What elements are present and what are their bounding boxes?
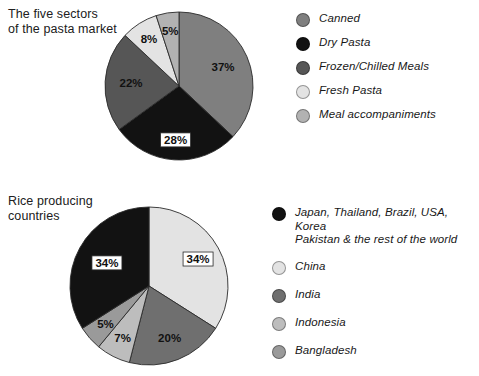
pasta-legend-label: Dry Pasta bbox=[319, 36, 370, 50]
pasta-legend-label: Frozen/Chilled Meals bbox=[319, 60, 429, 74]
rice-legend-swatch-icon bbox=[272, 345, 286, 359]
rice-slice-label: 34% bbox=[187, 253, 210, 265]
rice-legend-item[interactable]: China bbox=[272, 260, 479, 275]
pasta-legend-item[interactable]: Canned bbox=[296, 12, 436, 27]
pasta-legend-item[interactable]: Dry Pasta bbox=[296, 36, 436, 51]
pasta-legend-label: Meal accompaniments bbox=[319, 108, 436, 122]
rice-pie-svg: 34%20%7%5%34% bbox=[66, 203, 232, 369]
pasta-legend-item[interactable]: Meal accompaniments bbox=[296, 108, 436, 123]
rice-legend-label: Indonesia bbox=[295, 316, 346, 330]
rice-legend-item[interactable]: India bbox=[272, 288, 479, 303]
rice-legend-swatch-icon bbox=[272, 317, 286, 331]
rice-slice-label: 7% bbox=[114, 332, 131, 344]
rice-legend-item[interactable]: Bangladesh bbox=[272, 344, 479, 359]
pasta-slice-label: 8% bbox=[141, 33, 158, 45]
rice-legend-item[interactable]: Japan, Thailand, Brazil, USA, Korea Paki… bbox=[272, 206, 479, 247]
rice-slice-label: 5% bbox=[97, 318, 114, 330]
pasta-legend-label: Canned bbox=[319, 12, 360, 26]
figure-canvas: The five sectors of the pasta market 37%… bbox=[0, 0, 479, 376]
rice-legend: Japan, Thailand, Brazil, USA, Korea Paki… bbox=[272, 206, 479, 372]
rice-slice-label: 20% bbox=[158, 332, 181, 344]
rice-legend-swatch-icon bbox=[272, 261, 286, 275]
rice-legend-label: Bangladesh bbox=[295, 344, 357, 358]
rice-legend-swatch-icon bbox=[272, 289, 286, 303]
rice-slice-label: 34% bbox=[95, 257, 118, 269]
pasta-pie-chart: 37%28%22%8%5% bbox=[99, 6, 259, 166]
pasta-legend-swatch-icon bbox=[296, 61, 310, 75]
rice-legend-item[interactable]: Indonesia bbox=[272, 316, 479, 331]
pasta-slice-label: 5% bbox=[162, 25, 179, 37]
rice-legend-label: China bbox=[295, 260, 326, 274]
pasta-legend-item[interactable]: Frozen/Chilled Meals bbox=[296, 60, 436, 75]
pasta-slice-label: 22% bbox=[120, 77, 143, 89]
pasta-legend-swatch-icon bbox=[296, 109, 310, 123]
pasta-legend-item[interactable]: Fresh Pasta bbox=[296, 84, 436, 99]
rice-legend-swatch-icon bbox=[272, 207, 286, 221]
pasta-legend-swatch-icon bbox=[296, 37, 310, 51]
pasta-legend-label: Fresh Pasta bbox=[319, 84, 382, 98]
pasta-legend-swatch-icon bbox=[296, 85, 310, 99]
pasta-slice-label: 28% bbox=[164, 134, 187, 146]
pasta-slice-label: 37% bbox=[212, 61, 235, 73]
rice-legend-label: Japan, Thailand, Brazil, USA, Korea Paki… bbox=[295, 206, 479, 247]
rice-legend-label: India bbox=[295, 288, 320, 302]
pasta-pie-svg: 37%28%22%8%5% bbox=[99, 6, 259, 166]
pasta-legend-swatch-icon bbox=[296, 13, 310, 27]
pasta-legend: CannedDry PastaFrozen/Chilled MealsFresh… bbox=[296, 12, 436, 132]
rice-pie-chart: 34%20%7%5%34% bbox=[66, 203, 232, 369]
